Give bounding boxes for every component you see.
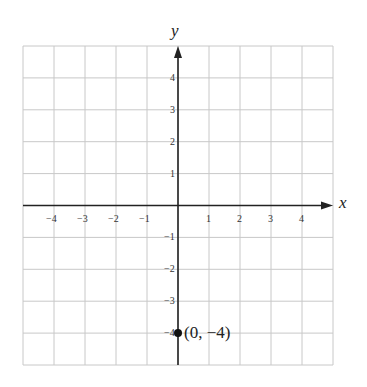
x-tick-label: −3 (77, 214, 88, 224)
x-tick-label: −2 (108, 214, 119, 224)
x-axis-label: x (339, 194, 347, 211)
y-tick-label: 2 (170, 137, 175, 147)
y-tick-label: 3 (170, 105, 175, 115)
y-tick-label: 1 (170, 169, 175, 179)
y-tick-label: −3 (164, 296, 175, 306)
x-tick-label: 1 (206, 214, 211, 224)
x-axis-arrow-icon (321, 202, 333, 210)
y-tick-label: 4 (170, 73, 175, 83)
y-tick-label: −1 (164, 232, 175, 242)
y-tick-label: −4 (164, 328, 175, 338)
y-tick-label: −2 (164, 264, 175, 274)
y-axis-arrow-icon (174, 46, 182, 58)
x-tick-label: 4 (299, 214, 304, 224)
x-tick-label: −1 (139, 214, 150, 224)
x-tick-label: −4 (46, 214, 57, 224)
point-label: (0, −4) (184, 324, 230, 341)
axes (23, 46, 333, 365)
x-tick-label: 3 (268, 214, 273, 224)
data-point (174, 329, 182, 337)
x-tick-label: 2 (237, 214, 242, 224)
data-points (174, 329, 182, 337)
y-axis-label: y (171, 22, 179, 39)
